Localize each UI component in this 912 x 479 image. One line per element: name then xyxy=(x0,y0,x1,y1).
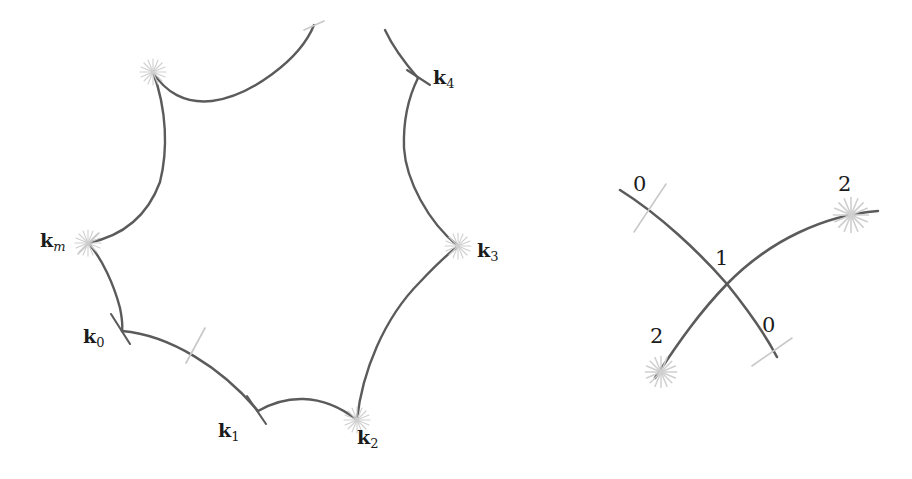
polygon-edge-bottom-left xyxy=(122,331,258,411)
label-k-3: k3 xyxy=(477,241,498,263)
tick-marker-top-right-end xyxy=(304,21,324,30)
label-k-0-base: k xyxy=(83,325,96,347)
left-panel-curves xyxy=(88,25,458,420)
polygon-edge-top-right xyxy=(385,30,418,78)
label-k-1: k1 xyxy=(218,421,239,443)
geodesic-b xyxy=(655,211,878,378)
tick-marker-k1 xyxy=(247,396,266,424)
right-panel-curves xyxy=(620,190,878,378)
label-k-2: k2 xyxy=(357,428,378,450)
label-k-1-base: k xyxy=(218,419,231,441)
tick-marker-k0 xyxy=(111,314,130,344)
label-k-0-sub: 0 xyxy=(96,335,104,350)
polygon-edge-bottom xyxy=(258,399,357,420)
polygon-edge-lower-right xyxy=(357,246,458,420)
left-panel-ticks-dark xyxy=(111,70,430,424)
label-k-4: k4 xyxy=(433,68,454,90)
label-k-m-base: k xyxy=(40,229,53,251)
figure-canvas xyxy=(0,0,912,479)
polygon-edge-upper-left xyxy=(88,72,165,243)
polygon-edge-top xyxy=(153,25,314,101)
left-panel-ticks-light xyxy=(78,21,324,363)
label-k-1-sub: 1 xyxy=(231,429,239,444)
starburst-marker-upper-right-two xyxy=(833,197,868,232)
tick-marker-lower-right-zero xyxy=(752,338,792,366)
label-k-3-sub: 3 xyxy=(490,249,498,264)
label-upper-left-zero: 0 xyxy=(633,174,646,195)
label-k-0: k0 xyxy=(83,327,104,349)
label-lower-left-two: 2 xyxy=(650,326,663,347)
polygon-edge-upper-right xyxy=(404,78,458,246)
label-upper-right-two: 2 xyxy=(838,174,851,195)
starburst-marker-lower-left-two xyxy=(645,356,676,387)
polygon-edge-lower-left xyxy=(88,243,122,331)
label-center-one: 1 xyxy=(715,248,728,269)
starburst-marker-top xyxy=(140,59,166,85)
label-k-4-sub: 4 xyxy=(446,76,454,91)
label-k-2-sub: 2 xyxy=(370,436,378,451)
label-k-3-base: k xyxy=(477,239,490,261)
left-panel-starbursts xyxy=(75,59,471,433)
label-k-m: km xyxy=(40,231,66,253)
starburst-marker-k3 xyxy=(445,233,471,259)
tick-marker-k4 xyxy=(407,70,430,85)
geodesic-a xyxy=(620,190,777,357)
label-lower-right-zero: 0 xyxy=(762,315,775,336)
right-panel-starbursts xyxy=(645,197,868,387)
label-k-m-sub: m xyxy=(53,239,65,254)
figure-root: km k0 k1 k2 k3 k4 0 2 1 0 2 xyxy=(0,0,912,479)
label-k-2-base: k xyxy=(357,426,370,448)
label-k-4-base: k xyxy=(433,66,446,88)
